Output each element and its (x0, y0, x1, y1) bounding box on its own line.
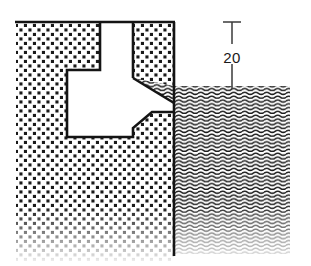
cross-section-svg: 20 (0, 0, 311, 266)
technical-drawing-figure: 20 (0, 0, 311, 266)
dotted-solid-region (16, 22, 174, 262)
dimension-value-label: 20 (223, 49, 240, 66)
